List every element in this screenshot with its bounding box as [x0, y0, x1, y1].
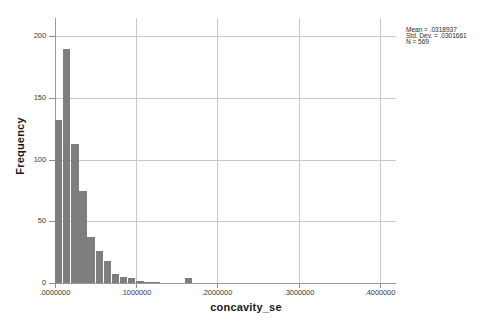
- histogram-bar: [136, 281, 143, 283]
- histogram-bar: [152, 282, 159, 283]
- histogram-bar: [71, 144, 78, 283]
- statistics-annotation: Mean = .0318937 Std. Dev. = .0301661 N =…: [406, 27, 467, 46]
- histogram-bars: [55, 18, 396, 283]
- histogram-bar: [128, 278, 135, 283]
- y-axis-tick-label: 0: [6, 279, 46, 287]
- histogram-bar: [63, 49, 70, 283]
- x-axis-title: concavity_se: [0, 301, 492, 313]
- x-axis-line: [55, 283, 396, 284]
- y-axis-tick-label: 150: [6, 94, 46, 102]
- histogram-bar: [104, 261, 111, 283]
- x-axis-tick-label: .0000000: [20, 288, 90, 297]
- histogram-bar: [96, 251, 103, 283]
- x-axis-tick-label: .1000000: [101, 288, 171, 297]
- histogram-bar: [144, 282, 151, 283]
- histogram-bar: [79, 191, 86, 283]
- histogram-bar: [112, 274, 119, 283]
- histogram-bar: [55, 120, 62, 283]
- y-axis-title: Frequency: [14, 56, 26, 236]
- histogram-bar: [87, 237, 94, 283]
- y-axis-tick-label: 200: [6, 32, 46, 40]
- histogram-bar: [185, 278, 192, 283]
- histogram-bar: [120, 277, 127, 283]
- x-axis-tick-label: .3000000: [264, 288, 334, 297]
- y-axis-tick-label: 50: [6, 217, 46, 225]
- y-axis-tick-label: 100: [6, 156, 46, 164]
- n-text: N = 569: [406, 39, 467, 45]
- x-axis-tick-label: .4000000: [345, 288, 415, 297]
- x-axis-tick-label: .2000000: [182, 288, 252, 297]
- histogram-chart: 050100150200.0000000.1000000.2000000.300…: [0, 0, 492, 324]
